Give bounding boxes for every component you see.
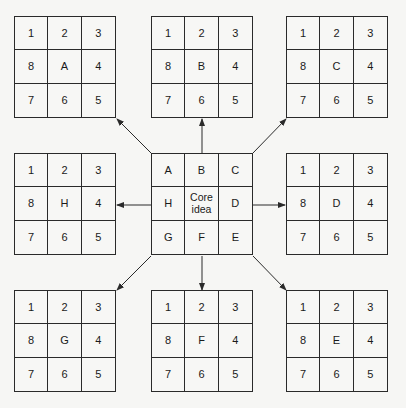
grid-cell: 6 xyxy=(185,84,218,117)
grid-cell: 6 xyxy=(48,358,81,391)
grid-cell: 6 xyxy=(48,84,81,117)
grid-cell: 6 xyxy=(320,84,353,117)
grid-cell: 1 xyxy=(152,291,185,324)
arrow-to-G xyxy=(117,256,151,290)
grid-core: A B C H Core idea D G F E xyxy=(151,153,253,255)
grid-center-label: F xyxy=(185,324,218,357)
grid-center-label: G xyxy=(48,324,81,357)
grid-cell: 7 xyxy=(287,84,320,117)
grid-cell: 1 xyxy=(15,154,48,187)
grid-cell: 8 xyxy=(287,187,320,220)
grid-cell: 4 xyxy=(82,187,115,220)
grid-cell: 1 xyxy=(287,154,320,187)
arrow-to-A xyxy=(117,119,151,153)
grid-center-label: C xyxy=(320,50,353,83)
grid-cell: 2 xyxy=(48,291,81,324)
grid-cell: 7 xyxy=(287,221,320,254)
grid-cell: 7 xyxy=(15,221,48,254)
grid-cell: 2 xyxy=(48,17,81,50)
grid-cell: 2 xyxy=(320,17,353,50)
grid-cell: 4 xyxy=(219,50,252,83)
grid-cell: 7 xyxy=(287,358,320,391)
core-cell-G: G xyxy=(152,221,185,254)
grid-cell: 8 xyxy=(152,324,185,357)
grid-B: 1 2 3 8 B 4 7 6 5 xyxy=(151,16,253,118)
grid-cell: 1 xyxy=(287,291,320,324)
grid-cell: 5 xyxy=(82,84,115,117)
grid-cell: 4 xyxy=(354,187,387,220)
grid-cell: 2 xyxy=(185,17,218,50)
grid-C: 1 2 3 8 C 4 7 6 5 xyxy=(286,16,388,118)
grid-cell: 5 xyxy=(354,84,387,117)
grid-cell: 6 xyxy=(48,221,81,254)
core-cell-E: E xyxy=(219,221,252,254)
grid-center-label: E xyxy=(320,324,353,357)
arrow-to-E xyxy=(253,256,286,290)
grid-cell: 2 xyxy=(320,291,353,324)
grid-G: 1 2 3 8 G 4 7 6 5 xyxy=(14,290,116,392)
grid-cell: 7 xyxy=(15,358,48,391)
grid-cell: 6 xyxy=(320,221,353,254)
grid-cell: 3 xyxy=(354,17,387,50)
grid-cell: 8 xyxy=(287,50,320,83)
core-cell-F: F xyxy=(185,221,218,254)
grid-cell: 8 xyxy=(15,324,48,357)
grid-cell: 5 xyxy=(82,358,115,391)
core-cell-D: D xyxy=(219,187,252,220)
grid-cell: 8 xyxy=(15,187,48,220)
core-cell-C: C xyxy=(219,154,252,187)
grid-cell: 8 xyxy=(15,50,48,83)
grid-center-label: A xyxy=(48,50,81,83)
grid-cell: 5 xyxy=(219,358,252,391)
grid-cell: 2 xyxy=(48,154,81,187)
grid-cell: 4 xyxy=(82,324,115,357)
grid-F: 1 2 3 8 F 4 7 6 5 xyxy=(151,290,253,392)
core-cell-A: A xyxy=(152,154,185,187)
grid-H: 1 2 3 8 H 4 7 6 5 xyxy=(14,153,116,255)
grid-cell: 4 xyxy=(219,324,252,357)
grid-cell: 4 xyxy=(354,324,387,357)
grid-center-label: D xyxy=(320,187,353,220)
grid-cell: 7 xyxy=(152,358,185,391)
grid-cell: 3 xyxy=(82,17,115,50)
grid-cell: 3 xyxy=(219,291,252,324)
grid-cell: 3 xyxy=(219,17,252,50)
grid-cell: 6 xyxy=(185,358,218,391)
grid-cell: 7 xyxy=(152,84,185,117)
grid-cell: 5 xyxy=(82,221,115,254)
grid-cell: 1 xyxy=(152,17,185,50)
grid-cell: 1 xyxy=(15,291,48,324)
grid-cell: 7 xyxy=(15,84,48,117)
grid-cell: 6 xyxy=(320,358,353,391)
core-idea-label: Core idea xyxy=(185,187,218,220)
grid-cell: 2 xyxy=(320,154,353,187)
grid-cell: 8 xyxy=(152,50,185,83)
grid-cell: 1 xyxy=(15,17,48,50)
grid-cell: 4 xyxy=(354,50,387,83)
grid-cell: 4 xyxy=(82,50,115,83)
grid-cell: 5 xyxy=(354,358,387,391)
grid-cell: 3 xyxy=(354,291,387,324)
grid-cell: 3 xyxy=(82,154,115,187)
grid-A: 1 2 3 8 A 4 7 6 5 xyxy=(14,16,116,118)
grid-cell: 3 xyxy=(354,154,387,187)
grid-E: 1 2 3 8 E 4 7 6 5 xyxy=(286,290,388,392)
grid-cell: 8 xyxy=(287,324,320,357)
grid-cell: 3 xyxy=(82,291,115,324)
arrow-to-C xyxy=(253,119,286,153)
core-cell-H: H xyxy=(152,187,185,220)
grid-cell: 5 xyxy=(354,221,387,254)
grid-cell: 1 xyxy=(287,17,320,50)
grid-cell: 5 xyxy=(219,84,252,117)
core-cell-B: B xyxy=(185,154,218,187)
lotus-blossom-diagram: 1 2 3 8 A 4 7 6 5 1 2 3 8 B 4 7 6 5 1 2 … xyxy=(0,0,406,408)
grid-center-label: H xyxy=(48,187,81,220)
grid-D: 1 2 3 8 D 4 7 6 5 xyxy=(286,153,388,255)
grid-cell: 2 xyxy=(185,291,218,324)
grid-center-label: B xyxy=(185,50,218,83)
